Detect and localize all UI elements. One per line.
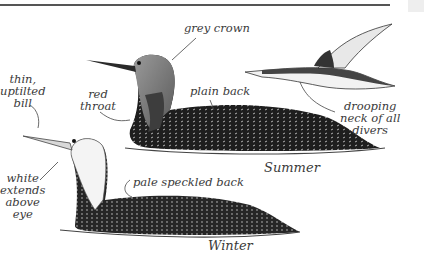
label-white-extends: white extends above eye bbox=[0, 172, 45, 220]
label-plain-back: plain back bbox=[190, 85, 250, 97]
label-winter: Winter bbox=[208, 240, 253, 252]
label-thin-bill: thin, uptilted bill bbox=[0, 73, 46, 109]
label-grey-crown: grey crown bbox=[184, 22, 250, 34]
label-pale-speckled-back: pale speckled back bbox=[133, 176, 244, 188]
label-summer: Summer bbox=[264, 162, 320, 174]
label-drooping-neck: drooping neck of all divers bbox=[340, 100, 400, 136]
label-red-throat: red throat bbox=[80, 88, 116, 112]
flying-diver bbox=[245, 24, 395, 89]
